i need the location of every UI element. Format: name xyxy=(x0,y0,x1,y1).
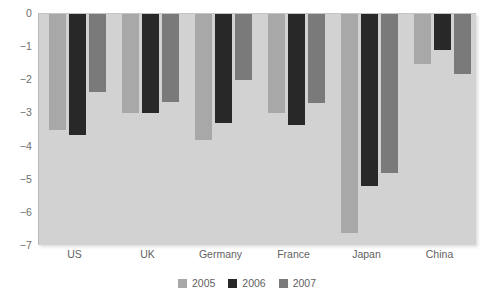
bar-uk-2006[interactable] xyxy=(142,14,159,113)
bar-group-us xyxy=(39,14,112,245)
bar-germany-2007[interactable] xyxy=(235,14,252,80)
x-axis-tick-label-germany: Germany xyxy=(199,248,242,260)
x-axis-tick-label-uk: UK xyxy=(140,248,155,260)
legend-label-2007: 2007 xyxy=(293,277,316,289)
bar-china-2007[interactable] xyxy=(454,14,471,74)
x-axis: USUKGermanyFranceJapanChina xyxy=(38,248,476,268)
bar-group-germany xyxy=(185,14,258,245)
y-axis-tick-label: −2 xyxy=(20,73,32,85)
bar-us-2007[interactable] xyxy=(89,14,106,92)
legend-swatch-icon-2007 xyxy=(279,279,288,288)
plot-area xyxy=(38,13,476,245)
legend-label-2005: 2005 xyxy=(192,277,215,289)
y-axis-tick-label: −7 xyxy=(20,239,32,251)
bar-france-2007[interactable] xyxy=(308,14,325,103)
y-axis-tick-label: −4 xyxy=(20,140,32,152)
bar-france-2005[interactable] xyxy=(268,14,285,113)
bar-us-2005[interactable] xyxy=(49,14,66,130)
y-axis-tick-label: 0 xyxy=(26,7,32,19)
legend-label-2006: 2006 xyxy=(242,277,265,289)
bar-china-2006[interactable] xyxy=(434,14,451,50)
bar-group-china xyxy=(404,14,477,245)
bar-japan-2007[interactable] xyxy=(381,14,398,173)
bar-japan-2005[interactable] xyxy=(341,14,358,233)
y-axis: 0−1−2−3−4−5−6−7 xyxy=(0,0,38,250)
y-axis-tick-label: −3 xyxy=(20,106,32,118)
y-axis-tick-label: −1 xyxy=(20,40,32,52)
legend-entry-2005[interactable]: 2005 xyxy=(178,277,215,289)
bar-germany-2005[interactable] xyxy=(195,14,212,140)
bar-group-uk xyxy=(112,14,185,245)
x-axis-tick-label-france: France xyxy=(277,248,310,260)
bar-china-2005[interactable] xyxy=(414,14,431,64)
legend-entry-2007[interactable]: 2007 xyxy=(279,277,316,289)
bar-uk-2005[interactable] xyxy=(122,14,139,113)
x-axis-tick-label-us: US xyxy=(67,248,82,260)
y-axis-tick-label: −6 xyxy=(20,206,32,218)
bar-germany-2006[interactable] xyxy=(215,14,232,123)
bar-us-2006[interactable] xyxy=(69,14,86,135)
bar-group-france xyxy=(258,14,331,245)
bar-group-japan xyxy=(331,14,404,245)
x-axis-tick-label-japan: Japan xyxy=(352,248,381,260)
bar-uk-2007[interactable] xyxy=(162,14,179,102)
legend-swatch-icon-2006 xyxy=(228,279,237,288)
x-axis-tick-label-china: China xyxy=(426,248,453,260)
chart-legend: 200520062007 xyxy=(0,277,494,289)
bar-chart: 0−1−2−3−4−5−6−7 USUKGermanyFranceJapanCh… xyxy=(0,0,494,302)
bar-japan-2006[interactable] xyxy=(361,14,378,186)
legend-entry-2006[interactable]: 2006 xyxy=(228,277,265,289)
y-axis-tick-label: −5 xyxy=(20,173,32,185)
bar-france-2006[interactable] xyxy=(288,14,305,125)
legend-swatch-icon-2005 xyxy=(178,279,187,288)
